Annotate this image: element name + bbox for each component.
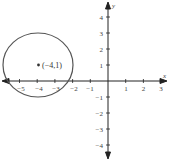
x-tick-labels: −5 −4 −3 −2 −1 1 2 3 — [17, 85, 163, 93]
y-tick-label: 4 — [100, 14, 104, 22]
x-tick-label: 1 — [124, 85, 128, 93]
y-tick-label: 1 — [100, 62, 104, 70]
x-axis-label: x — [162, 72, 167, 80]
x-tick-label: −2 — [70, 85, 78, 93]
center-point — [37, 64, 40, 67]
x-tick-label: 3 — [159, 85, 163, 93]
y-tick-label: −3 — [96, 126, 104, 134]
y-tick-label: −1 — [96, 94, 104, 102]
coordinate-plane: −5 −4 −3 −2 −1 1 2 3 4 3 2 1 −1 −2 −3 −4… — [0, 0, 170, 160]
y-tick-label: −2 — [96, 110, 104, 118]
center-point-label: (−4,1) — [42, 61, 62, 70]
x-tick-label: −4 — [35, 85, 43, 93]
y-tick-label: 2 — [100, 46, 104, 54]
y-axis-label: y — [111, 2, 116, 10]
y-axis-up-arrow — [106, 2, 111, 9]
axes — [2, 2, 167, 159]
y-axis-down-arrow — [106, 152, 111, 159]
y-tick-label: 3 — [100, 30, 104, 38]
x-tick-label: 2 — [142, 85, 146, 93]
x-tick-label: −1 — [86, 85, 94, 93]
y-tick-label: −4 — [96, 142, 104, 150]
